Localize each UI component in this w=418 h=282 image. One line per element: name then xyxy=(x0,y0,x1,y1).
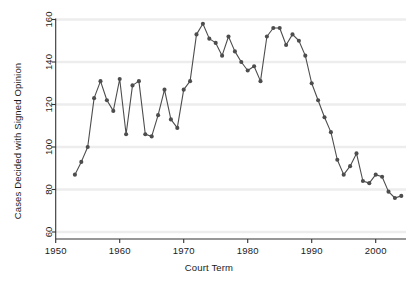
data-point xyxy=(297,39,301,43)
data-point xyxy=(220,54,224,58)
data-point xyxy=(252,64,256,68)
x-tick-label: 1990 xyxy=(301,245,323,256)
data-point xyxy=(130,83,134,87)
data-point xyxy=(105,98,109,102)
data-point xyxy=(73,173,77,177)
data-point xyxy=(156,113,160,117)
data-point xyxy=(374,173,378,177)
data-point xyxy=(214,41,218,45)
x-axis-title: Court Term xyxy=(0,262,418,273)
data-point xyxy=(111,109,115,113)
data-point xyxy=(348,164,352,168)
x-tick-label: 1960 xyxy=(109,245,131,256)
data-point xyxy=(169,117,173,121)
data-point xyxy=(271,26,275,30)
data-point xyxy=(201,22,205,26)
data-point xyxy=(188,79,192,83)
x-tick-label: 1970 xyxy=(173,245,195,256)
data-point xyxy=(246,68,250,72)
data-point xyxy=(194,32,198,36)
data-point xyxy=(207,37,211,41)
data-point xyxy=(310,81,314,85)
data-point xyxy=(399,194,403,198)
data-point xyxy=(361,179,365,183)
data-point xyxy=(233,49,237,53)
y-tick-label: 60 xyxy=(43,227,54,238)
y-tick-label: 80 xyxy=(43,184,54,195)
data-point xyxy=(239,60,243,64)
y-tick-label: 100 xyxy=(43,139,54,155)
data-point xyxy=(182,88,186,92)
y-tick-label: 140 xyxy=(43,54,54,70)
data-point xyxy=(79,160,83,164)
data-point xyxy=(354,151,358,155)
data-point xyxy=(386,190,390,194)
data-point xyxy=(265,34,269,38)
data-point xyxy=(335,158,339,162)
data-point xyxy=(367,181,371,185)
y-tick-label: 120 xyxy=(43,97,54,113)
data-point xyxy=(124,132,128,136)
data-point xyxy=(143,132,147,136)
data-point xyxy=(303,54,307,58)
data-point xyxy=(290,32,294,36)
data-point xyxy=(342,173,346,177)
data-line xyxy=(75,24,401,198)
x-tick-label: 1950 xyxy=(45,245,67,256)
line-chart-plot: 6080100120140160195019601970198019902000 xyxy=(0,0,418,282)
data-point xyxy=(322,115,326,119)
data-point xyxy=(278,26,282,30)
data-point xyxy=(98,79,102,83)
data-point xyxy=(137,79,141,83)
data-point xyxy=(380,175,384,179)
data-point xyxy=(92,96,96,100)
chart-container: 6080100120140160195019601970198019902000… xyxy=(0,0,418,282)
data-point xyxy=(284,43,288,47)
data-point xyxy=(86,145,90,149)
x-tick-label: 1980 xyxy=(237,245,259,256)
data-point xyxy=(258,79,262,83)
data-point xyxy=(393,196,397,200)
x-tick-label: 2000 xyxy=(365,245,387,256)
y-axis-title: Cases Decided with Signed Opinion xyxy=(10,0,26,282)
data-point xyxy=(162,88,166,92)
data-point xyxy=(329,130,333,134)
data-point xyxy=(226,34,230,38)
data-point xyxy=(175,126,179,130)
data-point xyxy=(150,134,154,138)
data-point xyxy=(118,77,122,81)
y-tick-label: 160 xyxy=(43,12,54,28)
data-point xyxy=(316,98,320,102)
